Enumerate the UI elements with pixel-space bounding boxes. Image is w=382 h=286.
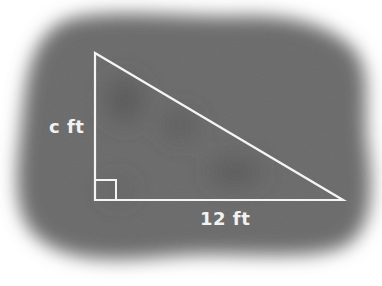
vertical-leg-label: c ft: [49, 118, 84, 136]
diagram-canvas: c ft 12 ft: [0, 0, 382, 286]
triangle-figure: [0, 0, 382, 286]
horizontal-leg-label: 12 ft: [200, 210, 250, 228]
background-blob: [0, 0, 382, 286]
